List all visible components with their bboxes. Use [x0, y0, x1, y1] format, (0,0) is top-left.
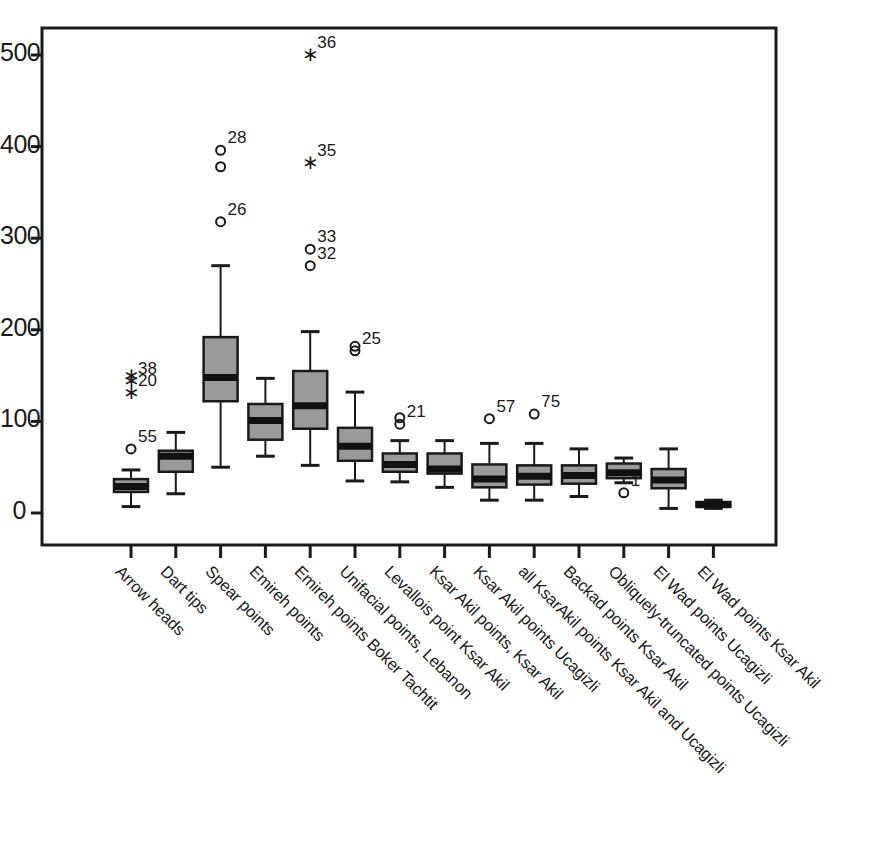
outlier-circle-marker — [216, 217, 225, 226]
box — [204, 337, 238, 401]
outlier-circle-marker — [395, 413, 404, 422]
y-axis-tick-label: 500 — [0, 38, 26, 67]
outlier-circle-marker — [216, 146, 225, 155]
outlier-value-label: 35 — [317, 141, 336, 161]
box-plot-figure: ∗∗∗∗∗ 0100200300400500 Arrow headsDart t… — [0, 0, 885, 853]
y-axis-tick-label: 400 — [0, 130, 26, 159]
y-axis-tick-label: 100 — [0, 404, 26, 433]
box — [293, 371, 327, 429]
outlier-value-label: 33 — [317, 227, 336, 247]
outlier-value-label: 36 — [317, 33, 336, 53]
y-axis-tick-label: 0 — [0, 496, 26, 525]
outlier-value-label: 25 — [362, 329, 381, 349]
outlier-circle-marker — [306, 245, 315, 254]
outlier-circle-marker — [216, 162, 225, 171]
outlier-value-label: 26 — [228, 200, 247, 220]
outlier-circle-marker — [485, 414, 494, 423]
y-axis-tick-label: 200 — [0, 313, 26, 342]
y-axis-tick-label: 300 — [0, 221, 26, 250]
outlier-star-marker: ∗ — [302, 151, 319, 173]
outlier-value-label: 21 — [407, 402, 426, 422]
outlier-star-marker: ∗ — [123, 364, 140, 386]
outlier-value-label: 28 — [228, 128, 247, 148]
outlier-circle-marker — [619, 488, 628, 497]
outlier-value-label: 1 — [631, 471, 640, 491]
outlier-circle-marker — [127, 444, 136, 453]
outlier-star-marker: ∗ — [302, 43, 319, 65]
plot-canvas: ∗∗∗∗∗ — [0, 0, 885, 853]
outlier-circle-marker — [530, 410, 539, 419]
outlier-value-label: 55 — [138, 427, 157, 447]
outlier-value-label: 38 — [138, 359, 157, 379]
outlier-value-label: 57 — [496, 397, 515, 417]
outlier-circle-marker — [306, 261, 315, 270]
outlier-value-label: 75 — [541, 392, 560, 412]
